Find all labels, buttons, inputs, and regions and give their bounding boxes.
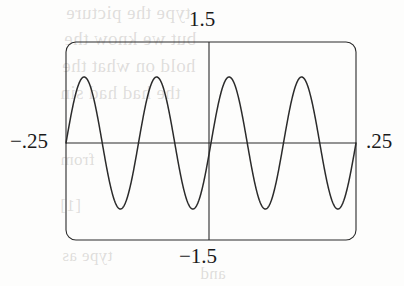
figure-container: type the picture but we know the hold on… (0, 0, 404, 286)
axis-label-bottom: −1.5 (179, 246, 217, 267)
axis-label-top: 1.5 (189, 9, 215, 30)
axis-label-left: −.25 (10, 131, 48, 152)
axis-label-right: .25 (366, 131, 392, 152)
